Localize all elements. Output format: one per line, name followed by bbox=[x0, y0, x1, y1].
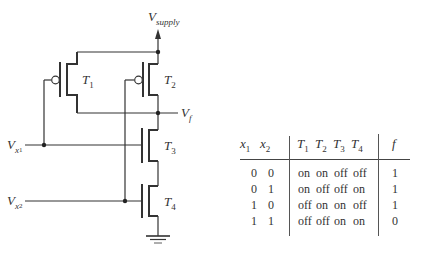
junction-dot bbox=[156, 111, 160, 115]
table-row-3-t2: off bbox=[316, 215, 330, 227]
t1-label: T1 bbox=[82, 73, 94, 86]
table-row-0-t2: on bbox=[316, 167, 328, 179]
table-row-1-t3: off bbox=[334, 183, 348, 195]
t3-label: T3 bbox=[164, 139, 176, 152]
junction-dot bbox=[156, 50, 160, 54]
table-row-2-f: 1 bbox=[392, 199, 398, 211]
table-row-3-t4: on bbox=[353, 215, 365, 227]
supply-label-main: V bbox=[148, 9, 156, 24]
t2-bubble bbox=[135, 76, 143, 84]
input1-label-main: V bbox=[7, 137, 15, 152]
header-f: f bbox=[392, 137, 396, 150]
table-row-1-t4: on bbox=[353, 183, 365, 195]
table-row-3-t1: off bbox=[298, 215, 312, 227]
table-row-0-t3: off bbox=[334, 167, 348, 179]
table-row-2-t4: off bbox=[353, 199, 367, 211]
table-row-3-x1: 1 bbox=[251, 215, 257, 227]
header-t2: T2 bbox=[315, 137, 327, 150]
table-row-0-x1: 0 bbox=[251, 167, 257, 179]
table-row-0-t1: on bbox=[298, 167, 310, 179]
header-x1: x1 bbox=[240, 137, 250, 150]
table-row-0-f: 1 bbox=[392, 167, 398, 179]
table-row-0-x2: 0 bbox=[268, 167, 274, 179]
t2-label-sub: 2 bbox=[171, 80, 176, 90]
supply-arrow-icon bbox=[155, 29, 161, 39]
table-row-2-t3: on bbox=[334, 199, 346, 211]
table-row-2-t1: off bbox=[298, 199, 312, 211]
t1-bubble bbox=[52, 76, 60, 84]
table-row-1-x1: 0 bbox=[251, 183, 257, 195]
header-t3: T3 bbox=[333, 137, 345, 150]
table-row-1-f: 1 bbox=[392, 183, 398, 195]
input2-label-main: V bbox=[7, 193, 15, 208]
t1-channel bbox=[67, 52, 77, 113]
junction-dot bbox=[42, 143, 46, 147]
t4-label: T4 bbox=[164, 195, 176, 208]
t3-label-sub: 3 bbox=[171, 146, 176, 156]
input2-label: Vx2 bbox=[7, 194, 22, 207]
t2-label: T2 bbox=[164, 73, 176, 86]
supply-label-sub: supply bbox=[156, 17, 180, 27]
input-divider bbox=[289, 136, 290, 236]
header-t1: T1 bbox=[297, 137, 309, 150]
table-row-1-x2: 1 bbox=[268, 183, 274, 195]
table-row-2-x2: 0 bbox=[268, 199, 274, 211]
table-row-2-x1: 1 bbox=[251, 199, 257, 211]
table-row-1-t2: off bbox=[316, 183, 330, 195]
table-row-3-x2: 1 bbox=[268, 215, 274, 227]
header-x2: x2 bbox=[260, 137, 270, 150]
output-label-main: V bbox=[181, 105, 189, 120]
table-row-3-f: 0 bbox=[392, 215, 398, 227]
t2-channel bbox=[149, 64, 158, 95]
input1-label-subsub: 1 bbox=[19, 146, 23, 154]
header-rule bbox=[240, 159, 410, 160]
t1-label-sub: 1 bbox=[89, 80, 94, 90]
table-row-2-t2: on bbox=[316, 199, 328, 211]
t3-channel bbox=[149, 130, 158, 161]
input2-label-subsub: 2 bbox=[19, 202, 23, 210]
table-row-1-t1: on bbox=[298, 183, 310, 195]
table-row-3-t3: on bbox=[334, 215, 346, 227]
supply-label: Vsupply bbox=[148, 10, 179, 23]
table-row-0-t4: off bbox=[353, 167, 367, 179]
junction-dot bbox=[123, 199, 127, 203]
output-divider bbox=[378, 134, 379, 236]
output-label: Vf bbox=[181, 106, 191, 119]
t4-label-sub: 4 bbox=[171, 202, 176, 212]
input1-label: Vx1 bbox=[7, 138, 22, 151]
t4-channel bbox=[149, 186, 158, 216]
header-t4: T4 bbox=[351, 137, 363, 150]
